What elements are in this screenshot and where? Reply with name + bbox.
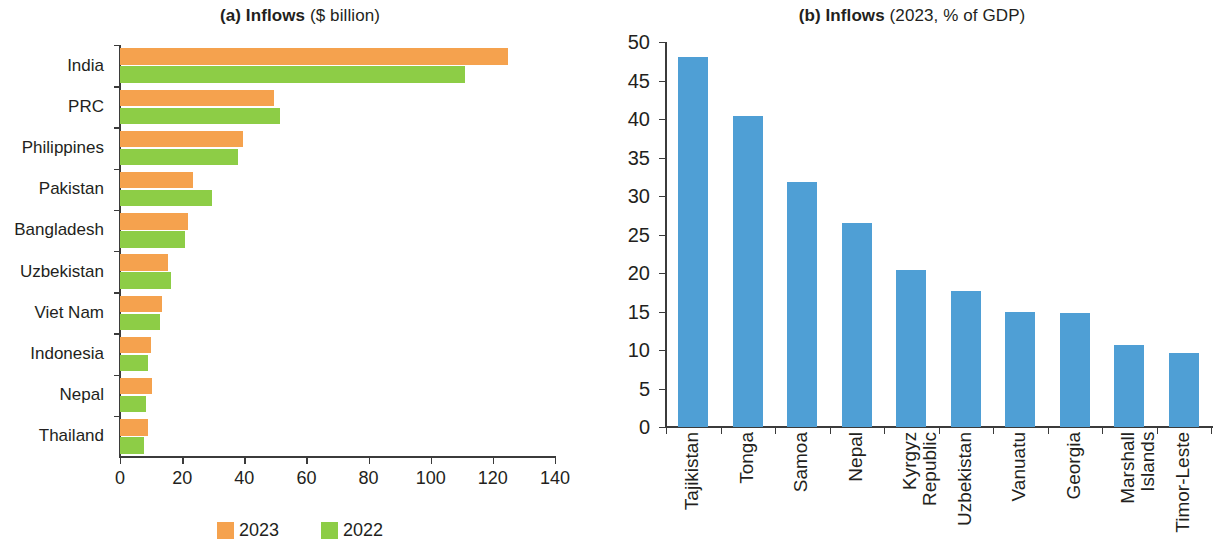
chart-a-x-tick-label: 40 [234,468,254,489]
chart-a-bar [120,378,152,395]
chart-a-bar [120,314,160,331]
chart-b-bar [896,270,926,427]
chart-a-x-tick [244,458,245,464]
legend-label: 2023 [239,520,279,541]
chart-a-plot-area: 020406080100120140 [120,45,555,457]
chart-b-y-tick-label: 30 [628,185,650,208]
chart-b-y-tick [659,389,666,390]
chart-a-category-label: Philippines [0,127,112,168]
chart-a-y-tick [114,45,120,46]
legend-item[interactable]: 2023 [217,520,279,541]
chart-b-bar [842,223,872,427]
chart-b-bar [1114,345,1144,427]
chart-b-y-tick [659,273,666,274]
chart-b-y-tick [659,196,666,197]
chart-a-y-tick [114,251,120,252]
chart-b-category-label: Vanuatu [1009,432,1029,501]
chart-b-bar [951,291,981,427]
chart-b-y-tick-label: 0 [639,416,650,439]
chart-a-x-tick-label: 0 [115,468,125,489]
chart-a-legend: 20232022 [0,520,600,541]
chart-b-y-tick [659,119,666,120]
figure-root: (a) Inflows ($ billion) IndiaPRCPhilippi… [0,0,1224,549]
chart-b-y-tick [659,42,666,43]
chart-a-bar [120,231,185,248]
chart-a-bar [120,355,148,372]
chart-b-bar [733,116,763,427]
chart-a-x-tick-label: 20 [172,468,192,489]
chart-b-category-label: Georgia [1064,432,1084,500]
chart-b-y-tick-label: 50 [628,31,650,54]
chart-b-y-tick-label: 20 [628,262,650,285]
chart-b-bar [787,182,817,427]
chart-b-category-labels: TajikistanTongaSamoaNepalKyrgyz Republic… [666,432,1211,547]
legend-label: 2022 [343,520,383,541]
chart-a-x-tick-label: 80 [359,468,379,489]
chart-b-y-tick-label: 35 [628,146,650,169]
chart-b-y-tick [659,427,666,428]
chart-a-category-label: Thailand [0,416,112,457]
chart-b-y-axis-labels: 05101520253035404550 [600,42,658,437]
panel-a-inflows-billion: (a) Inflows ($ billion) IndiaPRCPhilippi… [0,0,600,549]
chart-a-bar [120,213,188,230]
chart-a-bar [120,131,243,148]
chart-b-bar [1060,313,1090,427]
chart-a-x-tick-label: 60 [296,468,316,489]
chart-a-category-label: Bangladesh [0,210,112,251]
chart-a-x-tick [431,458,432,464]
chart-a-bar [120,108,280,125]
chart-b-y-tick [659,235,666,236]
chart-b-category-label: Kyrgyz Republic [900,432,940,506]
chart-a-bar [120,296,162,313]
chart-a-category-label: Uzbekistan [0,251,112,292]
chart-a-bar [120,149,238,166]
chart-a-bar [120,437,144,454]
chart-a-category-label: Indonesia [0,333,112,374]
chart-a-bar [120,190,212,207]
chart-b-y-tick-label: 45 [628,69,650,92]
chart-b-category-label: Uzbekistan [955,432,975,526]
chart-b-bar [678,57,708,427]
panel-b-inflows-gdp: (b) Inflows (2023, % of GDP) 05101520253… [600,0,1224,549]
chart-a-bar [120,172,193,189]
chart-a-bar [120,272,171,289]
chart-b-x-tick [1211,428,1212,434]
legend-swatch-icon [217,522,234,539]
chart-b-y-tick-label: 5 [639,377,650,400]
chart-a-x-tick-label: 100 [416,468,446,489]
chart-b-category-label: Tonga [737,432,757,484]
chart-b-bar [1005,312,1035,428]
chart-b-category-label: Samoa [791,432,811,492]
chart-a-bar [120,337,151,354]
legend-swatch-icon [321,522,338,539]
chart-b-y-tick-label: 25 [628,223,650,246]
chart-a-bar [120,90,274,107]
chart-b-category-label: Timor-Leste [1173,432,1193,533]
chart-a-y-tick [114,86,120,87]
chart-a-bar [120,48,508,65]
chart-b-y-tick [659,312,666,313]
chart-a-y-tick [114,127,120,128]
chart-b-y-tick-label: 10 [628,339,650,362]
chart-a-y-tick [114,333,120,334]
chart-a-category-label: Viet Nam [0,292,112,333]
chart-a-x-tick-label: 120 [478,468,508,489]
chart-a-bar [120,396,146,413]
legend-item[interactable]: 2022 [321,520,383,541]
chart-a-x-tick [306,458,307,464]
chart-a-y-tick [114,169,120,170]
chart-a-category-label: India [0,45,112,86]
chart-a-y-tick [114,292,120,293]
chart-a: IndiaPRCPhilippinesPakistanBangladeshUzb… [0,0,600,549]
chart-b-y-tick [659,350,666,351]
chart-a-x-tick [369,458,370,464]
chart-a-x-tick-label: 140 [540,468,570,489]
chart-b-plot-area [666,42,1211,427]
chart-b-category-label: Nepal [846,432,866,482]
chart-b-category-label: Tajikistan [682,432,702,510]
chart-b-y-tick [659,81,666,82]
chart-a-x-axis-line [119,456,556,458]
chart-a-category-label: Pakistan [0,169,112,210]
chart-b-category-label: Marshall Islands [1118,432,1158,504]
chart-a-y-tick [114,375,120,376]
